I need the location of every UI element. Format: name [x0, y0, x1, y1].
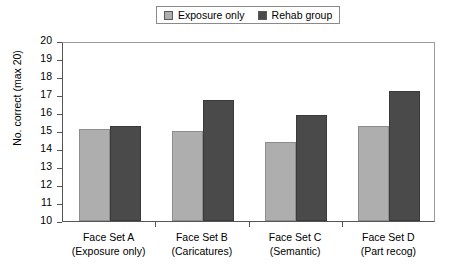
legend-swatch-rehab-group — [258, 11, 267, 20]
bar-rehab-group-group-2 — [203, 100, 234, 221]
x-axis-category-label-line2: (Part recog) — [333, 244, 443, 258]
legend-swatch-exposure-only — [164, 11, 173, 20]
y-axis-tick-label: 15 — [40, 125, 52, 136]
bar-rehab-group-group-4 — [389, 91, 420, 221]
y-axis-tick-label: 10 — [40, 215, 52, 226]
chart-legend: Exposure only Rehab group — [156, 6, 340, 24]
legend-entry-rehab-group: Rehab group — [258, 10, 333, 21]
bar-exposure-only-group-2 — [172, 131, 203, 221]
x-axis-category-label-line1: Face Set C — [269, 231, 322, 243]
legend-label-rehab-group: Rehab group — [272, 10, 333, 21]
bar-exposure-only-group-4 — [358, 126, 389, 221]
bar-rehab-group-group-3 — [296, 115, 327, 221]
legend-entry-exposure-only: Exposure only — [164, 10, 245, 21]
x-axis-category-label-line1: Face Set B — [176, 231, 228, 243]
bar-rehab-group-group-1 — [110, 126, 141, 221]
x-axis-category-label-line1: Face Set A — [83, 231, 134, 243]
x-axis-tick-mark — [342, 222, 343, 227]
y-axis-tick-label: 13 — [40, 161, 52, 172]
y-axis-tick-mark — [57, 222, 62, 223]
y-axis-tick-label: 14 — [40, 143, 52, 154]
y-axis-tick-label: 11 — [41, 197, 52, 208]
y-axis-tick-label: 18 — [40, 71, 52, 82]
bar-chart: Exposure only Rehab group 20191817161514… — [0, 0, 453, 265]
plot-area — [62, 42, 435, 222]
y-axis-title-text: No. correct (max 20) — [11, 23, 23, 173]
bar-exposure-only-group-1 — [79, 129, 110, 221]
y-axis-tick-label: 20 — [40, 35, 52, 46]
y-axis-tick-label: 16 — [40, 107, 52, 118]
y-axis-tick-label: 19 — [40, 53, 52, 64]
y-axis-tick-label: 17 — [40, 89, 52, 100]
bar-exposure-only-group-3 — [265, 142, 296, 221]
legend-label-exposure-only: Exposure only — [178, 10, 245, 21]
x-axis-category-label-line1: Face Set D — [362, 231, 415, 243]
x-axis-tick-mark — [155, 222, 156, 227]
x-axis-category-label-4: Face Set D(Part recog) — [333, 230, 443, 258]
y-axis-tick-label: 12 — [40, 179, 52, 190]
x-axis-tick-mark — [249, 222, 250, 227]
